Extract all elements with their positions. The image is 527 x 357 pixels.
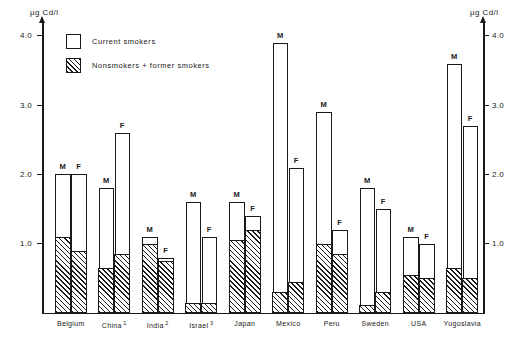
bar-sex-label-yugoslavia-m: M xyxy=(451,52,458,61)
bar-peru-f: F xyxy=(332,230,348,313)
bar-sex-label-belgium-f: F xyxy=(76,162,81,171)
y-tick-label-left-2.0: 2.0 xyxy=(20,170,32,179)
x-label-peru: Peru xyxy=(324,320,340,327)
bar-hatched-segment-japan-f xyxy=(245,230,261,313)
x-label-japan: Japan xyxy=(234,320,255,327)
y-tick-label-left-4.0: 4.0 xyxy=(20,31,32,40)
y-tick-label-left-3.0: 3.0 xyxy=(20,101,32,110)
bar-sex-label-mexico-f: F xyxy=(294,156,299,165)
bar-sex-label-japan-f: F xyxy=(250,204,255,213)
bar-hatched-segment-sweden-m xyxy=(359,305,375,313)
bar-sex-label-israel-m: M xyxy=(190,190,197,199)
bar-hatched-segment-india-m xyxy=(142,244,158,313)
x-label-israel: Israel3 xyxy=(189,320,213,329)
bar-group-china: MF xyxy=(99,22,131,313)
bar-sex-label-india-m: M xyxy=(146,225,153,234)
y-tick-label-right-2.0: 2.0 xyxy=(492,170,504,179)
bar-china-m: M xyxy=(99,188,115,313)
bar-belgium-f: F xyxy=(71,174,87,313)
bar-sex-label-china-m: M xyxy=(103,176,110,185)
bar-sex-label-peru-m: M xyxy=(320,100,327,109)
bar-japan-f: F xyxy=(245,216,261,313)
bar-sex-label-yugoslavia-f: F xyxy=(468,114,473,123)
x-label-usa: USA xyxy=(411,320,426,327)
bar-hatched-segment-mexico-m xyxy=(272,292,288,313)
bar-hatched-segment-china-f xyxy=(114,254,130,313)
plot-area: MFMFMFMFMFMFMFMFMFMF xyxy=(42,22,484,313)
bar-sex-label-japan-m: M xyxy=(233,190,240,199)
bar-mexico-m: M xyxy=(273,43,289,313)
bar-group-yugoslavia: MF xyxy=(447,22,479,313)
bar-india-m: M xyxy=(142,237,158,313)
bar-hatched-segment-belgium-m xyxy=(55,237,71,313)
y-tick-right-4.0 xyxy=(484,35,489,36)
bar-hatched-segment-israel-f xyxy=(201,303,217,313)
bar-sweden-f: F xyxy=(376,209,392,313)
bar-hatched-segment-usa-f xyxy=(419,278,435,313)
bar-hatched-segment-japan-m xyxy=(229,240,245,313)
y-tick-label-right-4.0: 4.0 xyxy=(492,31,504,40)
bar-sex-label-usa-f: F xyxy=(424,232,429,241)
x-label-china: China1 xyxy=(102,320,127,329)
bar-group-sweden: MF xyxy=(360,22,392,313)
bar-hatched-segment-india-f xyxy=(158,261,174,313)
bar-sex-label-sweden-m: M xyxy=(364,176,371,185)
cadmium-blood-level-bar-chart: µg Cd/l µg Cd/l 1.01.02.02.03.03.04.04.0… xyxy=(0,0,527,357)
bar-belgium-m: M xyxy=(55,174,71,313)
x-label-belgium: Belgium xyxy=(57,320,85,327)
bar-sweden-m: M xyxy=(360,188,376,313)
bar-group-peru: MF xyxy=(316,22,348,313)
y-tick-right-2.0 xyxy=(484,174,489,175)
y-tick-right-1.0 xyxy=(484,243,489,244)
bar-sex-label-peru-f: F xyxy=(337,218,342,227)
y-tick-right-3.0 xyxy=(484,105,489,106)
bar-group-japan: MF xyxy=(229,22,261,313)
x-label-india: India2 xyxy=(147,320,169,329)
bar-hatched-segment-usa-m xyxy=(403,275,419,313)
x-label-sweden: Sweden xyxy=(362,320,389,327)
bar-hatched-segment-peru-m xyxy=(316,244,332,313)
bar-yugoslavia-m: M xyxy=(447,64,463,313)
bar-hatched-segment-china-m xyxy=(98,268,114,313)
bar-hatched-segment-yugoslavia-f xyxy=(462,278,478,313)
bar-china-f: F xyxy=(115,133,131,313)
x-axis-line xyxy=(42,313,484,314)
bar-sex-label-israel-f: F xyxy=(207,225,212,234)
bar-group-india: MF xyxy=(142,22,174,313)
bar-hatched-segment-israel-m xyxy=(185,303,201,313)
bar-sex-label-sweden-f: F xyxy=(381,197,386,206)
x-label-mexico: Mexico xyxy=(276,320,300,327)
y-tick-label-right-1.0: 1.0 xyxy=(492,239,504,248)
bar-group-mexico: MF xyxy=(273,22,305,313)
bar-group-israel: MF xyxy=(186,22,218,313)
bar-hatched-segment-peru-f xyxy=(332,254,348,313)
bar-hatched-segment-yugoslavia-m xyxy=(446,268,462,313)
bar-usa-m: M xyxy=(403,237,419,313)
bar-israel-m: M xyxy=(186,202,202,313)
bar-sex-label-belgium-m: M xyxy=(59,162,66,171)
x-label-yugoslavia: Yugoslavia xyxy=(444,320,481,327)
bar-usa-f: F xyxy=(419,244,435,313)
bar-hatched-segment-belgium-f xyxy=(71,251,87,313)
bar-india-f: F xyxy=(158,258,174,313)
y-tick-label-left-1.0: 1.0 xyxy=(20,239,32,248)
y-tick-label-right-3.0: 3.0 xyxy=(492,101,504,110)
bar-sex-label-usa-m: M xyxy=(407,225,414,234)
bar-group-belgium: MF xyxy=(55,22,87,313)
bar-japan-m: M xyxy=(229,202,245,313)
bar-peru-m: M xyxy=(316,112,332,313)
bar-hatched-segment-sweden-f xyxy=(375,292,391,313)
bar-yugoslavia-f: F xyxy=(463,126,479,313)
bar-sex-label-india-f: F xyxy=(163,246,168,255)
bar-group-usa: MF xyxy=(403,22,435,313)
bar-sex-label-china-f: F xyxy=(120,121,125,130)
bar-hatched-segment-mexico-f xyxy=(288,282,304,313)
bar-israel-f: F xyxy=(202,237,218,313)
bar-sex-label-mexico-m: M xyxy=(277,31,284,40)
bar-mexico-f: F xyxy=(289,168,305,314)
